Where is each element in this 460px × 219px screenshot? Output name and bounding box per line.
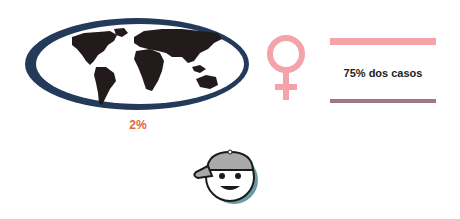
world-map-icon bbox=[22, 15, 252, 113]
bar-top-divider bbox=[330, 38, 436, 45]
female-stat-label: 75% dos casos bbox=[330, 67, 436, 79]
female-symbol-icon bbox=[264, 34, 308, 106]
boy-with-cap-icon bbox=[190, 140, 270, 210]
bar-bottom-divider bbox=[330, 99, 436, 103]
world-stat-label: 2% bbox=[118, 118, 158, 132]
